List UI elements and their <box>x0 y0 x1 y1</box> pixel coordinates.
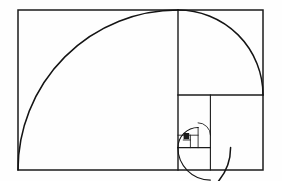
innermost-filled-block <box>184 133 190 139</box>
golden-spiral-diagram <box>0 0 282 181</box>
figure-background <box>0 0 282 181</box>
figure-root: Fibonacci Golden Spiral <box>0 0 282 181</box>
